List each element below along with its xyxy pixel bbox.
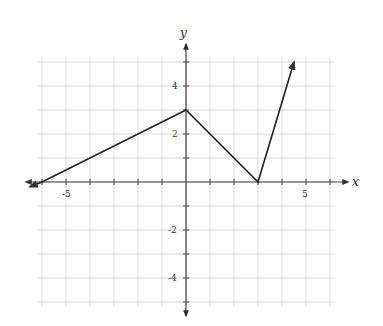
y-tick-label-2: 2	[172, 129, 178, 139]
x-tick-label-5: 5	[302, 189, 308, 199]
x-tick-label-neg5: -5	[62, 189, 71, 199]
coordinate-plane: x y -5 5 4 2 -2 -4	[0, 0, 383, 326]
y-tick-label-4: 4	[172, 81, 178, 91]
y-tick-label-neg4: -4	[168, 273, 177, 283]
axes	[26, 44, 348, 316]
x-axis-label: x	[352, 175, 359, 189]
y-axis-label: y	[179, 26, 187, 40]
y-tick-label-neg2: -2	[168, 225, 177, 235]
